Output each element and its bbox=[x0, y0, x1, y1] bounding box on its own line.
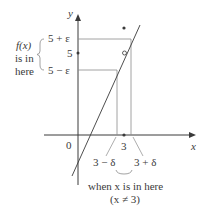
x-tick-right: 3 + δ bbox=[134, 157, 156, 168]
bottom-annotation-line1: when x is in here bbox=[88, 181, 163, 192]
y-axis-arrow-icon bbox=[75, 14, 81, 21]
y5-dot-icon bbox=[77, 52, 80, 55]
y-tick-center: 5 bbox=[67, 48, 73, 59]
x-tick-center: 3 bbox=[121, 141, 127, 152]
left-annotation-line1: f(x) bbox=[16, 40, 31, 51]
bottom-annotation-line2: (x ≠ 3) bbox=[110, 194, 140, 205]
left-delta-pointer bbox=[106, 137, 116, 156]
x-tick-left: 3 − δ bbox=[93, 157, 115, 168]
x3-dot-icon bbox=[122, 133, 125, 136]
x-axis-label: x bbox=[191, 141, 196, 152]
left-brace bbox=[37, 39, 44, 70]
right-delta-pointer bbox=[133, 137, 143, 156]
function-graph bbox=[72, 25, 140, 176]
y-tick-lower: 5 − ε bbox=[48, 65, 70, 76]
origin-label: 0 bbox=[66, 140, 72, 151]
x-axis-arrow-icon bbox=[189, 132, 196, 138]
y-tick-upper: 5 + ε bbox=[48, 33, 70, 44]
open-point-icon bbox=[123, 51, 127, 55]
bottom-brace bbox=[116, 170, 132, 174]
left-annotation-line2: is in bbox=[15, 53, 34, 64]
filled-point-icon bbox=[122, 26, 125, 29]
left-annotation-line3: here bbox=[15, 66, 34, 77]
y-axis-label: y bbox=[68, 8, 73, 19]
